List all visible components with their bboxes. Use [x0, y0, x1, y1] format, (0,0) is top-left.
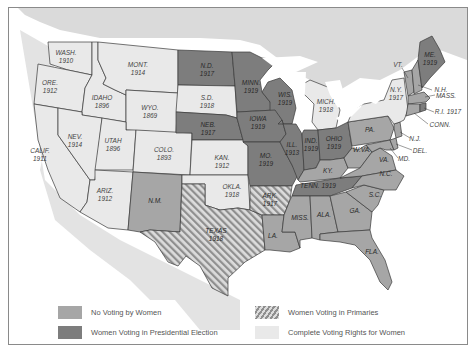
svg-text:R.I. 1917: R.I. 1917 [435, 108, 462, 115]
svg-text:1918: 1918 [209, 235, 224, 242]
legend-item-complete: Complete Voting Rights for Women [255, 326, 405, 339]
svg-text:W.VA.: W.VA. [353, 146, 371, 153]
svg-text:PA.: PA. [365, 126, 375, 133]
svg-text:MICH.: MICH. [317, 98, 336, 105]
svg-text:N.M.: N.M. [148, 197, 162, 204]
svg-text:N.D.: N.D. [201, 62, 214, 69]
svg-text:S.C.: S.C. [369, 191, 382, 198]
svg-text:IOWA: IOWA [249, 115, 266, 122]
svg-text:ARK.: ARK. [261, 192, 277, 199]
svg-text:1917: 1917 [201, 129, 216, 136]
svg-text:IDAHO: IDAHO [92, 94, 113, 101]
svg-text:DEL.: DEL. [413, 147, 428, 154]
svg-text:ALA.: ALA. [316, 211, 331, 218]
svg-text:IND.: IND. [305, 137, 318, 144]
svg-text:COLO.: COLO. [154, 146, 174, 153]
svg-text:1917: 1917 [389, 94, 404, 101]
svg-text:1912: 1912 [215, 162, 230, 169]
us-suffrage-map: WASH.1910 ORE.1912 CALIF.1911 IDAHO1896 … [0, 0, 476, 355]
svg-text:WIS.: WIS. [278, 91, 292, 98]
svg-text:VT.: VT. [393, 61, 403, 68]
svg-text:LA.: LA. [268, 232, 278, 239]
svg-text:KAN.: KAN. [214, 154, 229, 161]
svg-text:CONN.: CONN. [430, 121, 451, 128]
svg-text:1914: 1914 [131, 69, 146, 76]
svg-text:CALIF.: CALIF. [30, 147, 50, 154]
svg-text:MASS.: MASS. [436, 92, 456, 99]
svg-text:ARIZ.: ARIZ. [96, 187, 114, 194]
svg-text:1869: 1869 [143, 112, 158, 119]
svg-text:MINN.: MINN. [242, 79, 261, 86]
svg-text:1912: 1912 [98, 195, 113, 202]
svg-text:1918: 1918 [200, 102, 215, 109]
svg-text:MO.: MO. [260, 152, 272, 159]
swatch-presidential [58, 326, 82, 339]
svg-text:S.D.: S.D. [201, 94, 214, 101]
svg-text:MD.: MD. [398, 155, 410, 162]
swatch-complete [255, 326, 279, 339]
svg-text:1918: 1918 [319, 106, 334, 113]
svg-text:1918: 1918 [225, 191, 240, 198]
svg-text:VA.: VA. [379, 156, 389, 163]
legend-item-presidential: Women Voting in Presidential Election [58, 326, 218, 339]
svg-text:ILL.: ILL. [287, 141, 298, 148]
svg-text:FLA.: FLA. [365, 248, 379, 255]
svg-text:1919: 1919 [259, 160, 274, 167]
svg-text:N.C.: N.C. [380, 170, 393, 177]
svg-text:1919: 1919 [278, 99, 293, 106]
svg-text:1893: 1893 [157, 154, 172, 161]
svg-text:1912: 1912 [43, 87, 58, 94]
svg-text:1919: 1919 [423, 59, 438, 66]
svg-text:1917: 1917 [200, 70, 215, 77]
svg-text:KY.: KY. [323, 167, 333, 174]
svg-text:TEXAS: TEXAS [205, 227, 227, 234]
svg-text:1914: 1914 [68, 141, 83, 148]
svg-text:NEV.: NEV. [68, 133, 83, 140]
state-ri[interactable] [420, 103, 426, 112]
svg-text:1919: 1919 [327, 143, 342, 150]
svg-text:1919: 1919 [244, 87, 259, 94]
svg-text:1917: 1917 [263, 200, 278, 207]
svg-text:N.Y.: N.Y. [390, 86, 402, 93]
svg-text:1919: 1919 [304, 145, 319, 152]
svg-text:MISS.: MISS. [291, 214, 309, 221]
legend-item-no-voting: No Voting by Women [58, 306, 161, 319]
svg-text:1910: 1910 [59, 57, 74, 64]
svg-text:MONT.: MONT. [128, 61, 149, 68]
svg-text:1896: 1896 [95, 102, 110, 109]
swatch-primaries [255, 306, 279, 319]
svg-text:TENN. 1919: TENN. 1919 [300, 182, 336, 189]
swatch-no-voting [58, 306, 82, 319]
svg-text:N.J.: N.J. [409, 135, 421, 142]
svg-text:ME.: ME. [424, 51, 436, 58]
svg-text:UTAH: UTAH [104, 137, 122, 144]
svg-text:1919: 1919 [251, 123, 266, 130]
svg-text:GA.: GA. [349, 207, 360, 214]
svg-text:WYO.: WYO. [141, 104, 159, 111]
svg-text:OKLA.: OKLA. [222, 183, 241, 190]
svg-text:1913: 1913 [285, 149, 300, 156]
svg-text:1896: 1896 [106, 145, 121, 152]
legend-item-primaries: Women Voting in Primaries [255, 306, 378, 319]
svg-text:WASH.: WASH. [55, 49, 76, 56]
svg-text:OHIO: OHIO [326, 135, 343, 142]
svg-text:ORE.: ORE. [42, 79, 58, 86]
svg-text:NEB.: NEB. [200, 121, 215, 128]
svg-text:1911: 1911 [33, 155, 47, 162]
